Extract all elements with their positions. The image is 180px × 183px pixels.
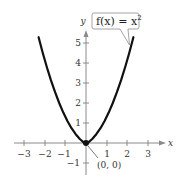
y-tick-label: 4: [75, 58, 81, 68]
x-axis-label: x: [168, 138, 173, 148]
y-axis-arrow-icon: [84, 30, 89, 37]
vertex-point: [83, 140, 89, 146]
y-axis-label: y: [79, 16, 86, 26]
y-tick-label: 5: [75, 38, 81, 48]
x-axis-arrow-icon: [159, 141, 166, 146]
y-tick-label: 2: [75, 98, 81, 108]
y-tick-label: 1: [75, 118, 81, 128]
vertex-label: (0, 0): [97, 160, 121, 170]
function-callout: f(x) = x2: [92, 13, 142, 45]
x-tick-label: 3: [145, 149, 151, 159]
vertex-leader-line: [88, 146, 98, 158]
y-tick-label: −1: [67, 158, 80, 168]
x-tick-label: 1: [104, 149, 110, 159]
x-tick-label: −2: [38, 149, 51, 159]
parabola-chart: −3 −2 −1 1 2 3 −1 1 2 3 4 5 x y (0, 0) f…: [0, 0, 180, 183]
callout-text: f(x) = x2: [96, 14, 142, 28]
x-tick-label: 2: [124, 149, 130, 159]
y-tick-label: 3: [75, 78, 81, 88]
x-tick-label: −3: [17, 149, 31, 159]
